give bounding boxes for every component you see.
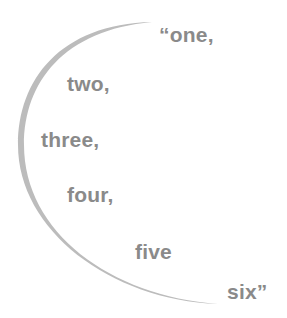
word-one: “one, [159, 24, 214, 45]
word-two: two, [67, 73, 110, 94]
word-three: three, [41, 129, 99, 150]
arc-stroke [18, 22, 218, 304]
figure-canvas: “one, two, three, four, five six” [0, 0, 287, 318]
word-five: five [135, 241, 172, 262]
word-four: four, [67, 184, 114, 205]
word-six: six” [227, 281, 268, 302]
curved-arc [0, 0, 287, 318]
